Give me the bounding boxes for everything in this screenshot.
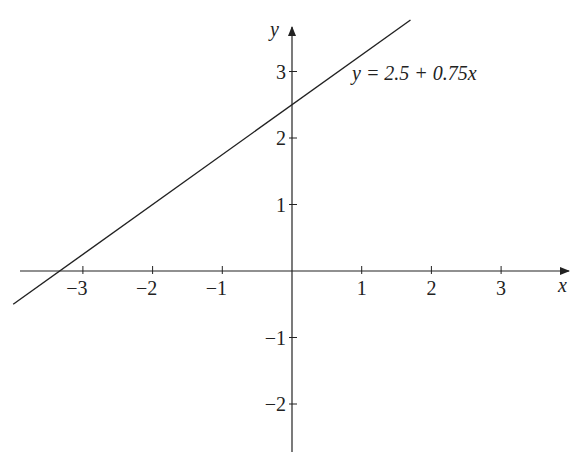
x-tick-label: −2 [136, 277, 157, 299]
y-tick-label: 1 [276, 194, 286, 216]
y-tick-label: 3 [276, 61, 286, 83]
series-line [13, 20, 410, 304]
x-tick-label: 3 [496, 277, 506, 299]
y-tick-label: 2 [276, 127, 286, 149]
x-tick-label: 2 [426, 277, 436, 299]
plot-area: −3−2−1123 −2−1123 x y y = 2.5 + 0.75x [0, 0, 577, 458]
x-tick-label: −3 [66, 277, 87, 299]
x-axis-label: x [557, 274, 567, 296]
y-tick-label: −2 [265, 393, 286, 415]
equation-label: y = 2.5 + 0.75x [350, 62, 477, 85]
y-axis-label: y [268, 18, 279, 41]
y-tick-label: −1 [265, 327, 286, 349]
x-tick-label: −1 [206, 277, 227, 299]
x-tick-label: 1 [357, 277, 367, 299]
chart: −3−2−1123 −2−1123 x y y = 2.5 + 0.75x [0, 0, 577, 458]
